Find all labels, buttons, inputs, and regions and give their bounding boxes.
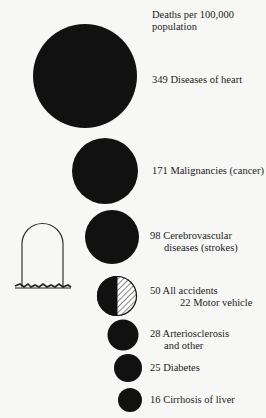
tombstone-icon xyxy=(15,223,71,288)
title-line-1: Deaths per 100,000 xyxy=(152,9,234,21)
label-cancer: 171 Malignancies (cancer) xyxy=(152,165,264,177)
bubble-diabetes xyxy=(114,354,142,382)
bubble-accidents xyxy=(97,276,137,316)
label-cirrhosis: 16 Cirrhosis of liver xyxy=(150,394,235,406)
label-accidents: 50 All accidents 22 Motor vehicle xyxy=(150,285,252,309)
bubble-cirrhosis xyxy=(118,388,142,412)
label-diabetes: 25 Diabetes xyxy=(150,362,200,374)
label-arteriosclerosis: 28 Arteriosclerosis and other xyxy=(150,328,229,352)
bubble-cancer xyxy=(72,138,138,204)
bubble-chart xyxy=(0,0,266,418)
label-heart: 349 Diseases of heart xyxy=(152,74,242,86)
bubble-strokes xyxy=(85,210,139,264)
title-line-2: population xyxy=(152,21,234,33)
chart-title: Deaths per 100,000 population xyxy=(152,9,234,33)
bubble-arteriosclerosis xyxy=(108,320,139,351)
label-strokes: 98 Cerebrovascular diseases (strokes) xyxy=(150,230,238,254)
bubble-heart xyxy=(33,24,137,128)
label-motor-vehicle: 22 Motor vehicle xyxy=(150,297,252,309)
